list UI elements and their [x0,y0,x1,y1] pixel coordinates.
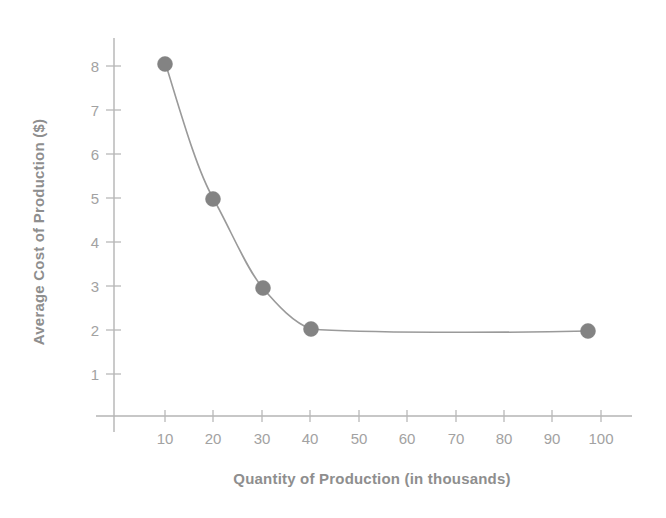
data-point-1 [158,57,173,72]
x-tick-label-80: 80 [496,430,513,447]
x-tick-label-50: 50 [351,430,368,447]
x-tick-label-70: 70 [448,430,465,447]
y-axis-title: Average Cost of Production ($) [30,119,47,345]
y-tick-label-5: 5 [91,190,99,207]
y-tick-label-3: 3 [91,278,99,295]
x-axis-title: Quantity of Production (in thousands) [233,470,510,487]
y-axis-tick-labels: 8 7 6 5 4 3 2 1 [91,58,99,383]
x-tick-label-100: 100 [588,430,613,447]
x-tick-label-20: 20 [205,430,222,447]
x-axis-tick-labels: 10 20 30 40 50 60 70 80 90 100 [157,430,614,447]
data-series-markers [158,57,596,339]
y-tick-label-8: 8 [91,58,99,75]
x-tick-label-30: 30 [254,430,271,447]
x-tick-label-10: 10 [157,430,174,447]
x-tick-label-60: 60 [399,430,416,447]
x-tick-label-40: 40 [302,430,319,447]
data-point-4 [304,322,319,337]
average-cost-curve-chart: 8 7 6 5 4 3 2 1 10 20 30 40 [0,0,666,518]
y-tick-label-2: 2 [91,322,99,339]
y-tick-label-6: 6 [91,146,99,163]
y-tick-label-7: 7 [91,102,99,119]
y-tick-label-1: 1 [91,366,99,383]
x-tick-label-90: 90 [544,430,561,447]
y-tick-label-4: 4 [91,234,99,251]
data-point-3 [256,281,271,296]
data-series-line [165,62,588,332]
chart-page: 8 7 6 5 4 3 2 1 10 20 30 40 [0,0,666,518]
data-point-5 [581,324,596,339]
data-point-2 [206,192,221,207]
